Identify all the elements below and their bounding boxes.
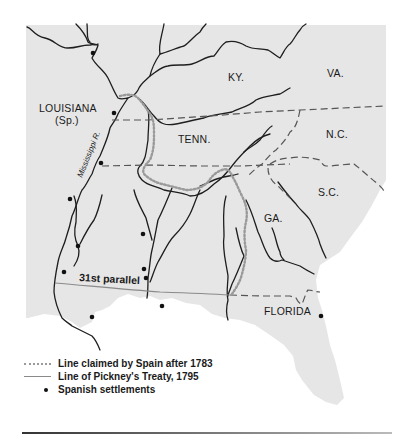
label-virginia: VA. bbox=[327, 67, 344, 79]
label-kentucky: KY. bbox=[228, 71, 244, 83]
dotted-line-icon bbox=[22, 363, 52, 365]
legend-item-spanish-claim: Line claimed by Spain after 1783 bbox=[22, 357, 213, 370]
settlement-dot bbox=[112, 111, 117, 116]
label-north-carolina: N.C. bbox=[326, 128, 348, 140]
settlement-dot bbox=[319, 314, 324, 319]
land-area bbox=[26, 25, 386, 405]
settlement-dot bbox=[144, 276, 149, 281]
solid-line-icon bbox=[22, 376, 52, 377]
legend-item-pinckney-treaty: Line of Pickney's Treaty, 1795 bbox=[22, 370, 213, 383]
settlement-dot bbox=[142, 267, 147, 272]
label-florida: FLORIDA bbox=[264, 305, 311, 317]
settlement-dot bbox=[68, 197, 73, 202]
settlement-dot bbox=[62, 270, 67, 275]
label-louisiana: LOUISIANA bbox=[39, 102, 97, 114]
legend-label: Line claimed by Spain after 1783 bbox=[58, 358, 213, 369]
settlement-dot bbox=[91, 51, 96, 56]
legend-label: Spanish settlements bbox=[58, 384, 155, 395]
map-legend: Line claimed by Spain after 1783 Line of… bbox=[22, 357, 213, 396]
settlement-dot bbox=[90, 315, 95, 320]
legend-item-settlements: Spanish settlements bbox=[22, 383, 213, 396]
settlement-dot bbox=[99, 161, 104, 166]
settlement-dot bbox=[160, 304, 165, 309]
dot-icon bbox=[22, 388, 52, 392]
label-louisiana-spanish: (Sp.) bbox=[55, 114, 79, 126]
settlement-dot bbox=[76, 244, 81, 249]
legend-label: Line of Pickney's Treaty, 1795 bbox=[58, 371, 199, 382]
settlement-dot bbox=[141, 232, 146, 237]
label-georgia: GA. bbox=[264, 212, 283, 224]
label-tennessee: TENN. bbox=[178, 133, 211, 145]
label-south-carolina: S.C. bbox=[318, 186, 339, 198]
